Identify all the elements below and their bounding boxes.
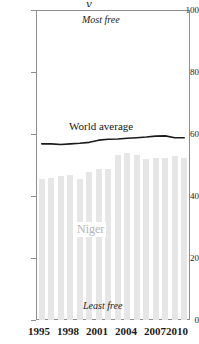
y-tick-mark-0 — [31, 320, 36, 321]
world-average-path — [42, 136, 185, 145]
annotation-world-average: World average — [67, 120, 135, 132]
x-tick-label-2010: 2010 — [160, 325, 194, 337]
chart-title-descender: y — [86, 0, 92, 7]
line-series-world-average — [36, 10, 190, 320]
chart-container: y 100 80 60 40 20 0 Most free Least free… — [0, 0, 199, 344]
annotation-least-free: Least free — [83, 300, 122, 311]
annotation-most-free: Most free — [82, 14, 120, 25]
annotation-niger: Niger — [75, 222, 106, 237]
